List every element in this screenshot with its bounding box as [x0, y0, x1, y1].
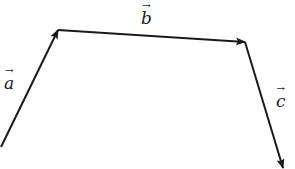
vector-diagram: → a → b → c — [0, 0, 295, 169]
vector-b-line — [58, 30, 245, 42]
vector-b-label: → b — [141, 3, 152, 27]
vector-a-letter: a — [4, 73, 14, 93]
vector-a-label: → a — [4, 68, 14, 92]
vector-b-letter: b — [141, 8, 152, 28]
vector-c-label: → c — [276, 86, 286, 110]
vector-c-letter: c — [276, 91, 286, 111]
